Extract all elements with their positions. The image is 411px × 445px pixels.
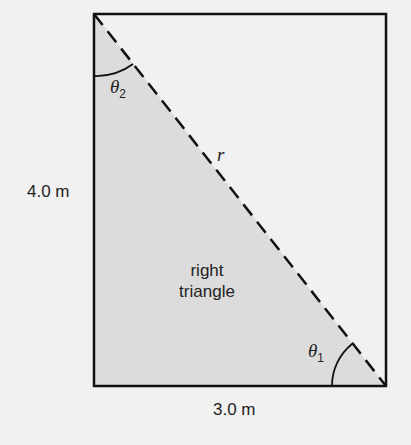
height-label: 4.0 m	[27, 182, 70, 202]
angle-theta2-label: θ2	[110, 76, 126, 101]
angle-theta1-label: θ1	[308, 340, 324, 365]
hypotenuse-label: r	[217, 144, 224, 166]
region-label: right triangle	[172, 260, 242, 302]
region-label-line1: right	[172, 260, 242, 281]
region-label-line2: triangle	[172, 281, 242, 302]
base-label: 3.0 m	[213, 400, 256, 420]
diagram-canvas	[0, 0, 411, 445]
